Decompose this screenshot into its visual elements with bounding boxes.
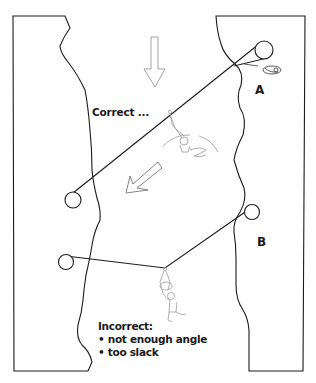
incorrect-note: Incorrect: • not enough angle • too slac… (98, 320, 207, 359)
left-cliff-outline (13, 16, 100, 371)
traverse-rope-correct (73, 44, 259, 193)
anchor-tree-left-upper (65, 192, 81, 208)
climber-figure-correct (163, 110, 218, 156)
direction-arrow-icon (126, 162, 162, 193)
anchor-b-label: B (257, 235, 266, 249)
gravity-arrow-icon (144, 37, 165, 87)
anchor-tree-a (255, 41, 273, 59)
right-cliff-outline (216, 16, 305, 371)
incorrect-bullet: • not enough angle (98, 333, 207, 346)
incorrect-bullet: • too slack (98, 346, 207, 359)
anchor-tree-left-lower (59, 255, 74, 270)
anchor-tree-b (245, 205, 260, 220)
correct-label: Correct ... (92, 106, 149, 118)
anchor-a-label: A (255, 83, 264, 97)
incorrect-title: Incorrect: (98, 320, 207, 333)
climber-figure-incorrect (160, 267, 186, 322)
tensioner-icon (244, 64, 281, 74)
